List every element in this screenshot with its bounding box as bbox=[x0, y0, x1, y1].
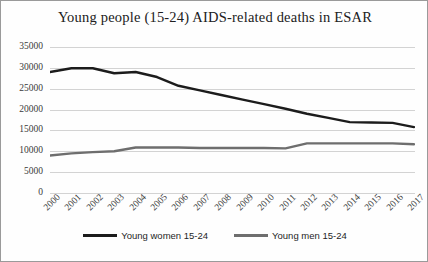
y-axis-tick-label: 5000 bbox=[0, 166, 43, 176]
legend-line-icon bbox=[83, 234, 117, 237]
chart-frame: Young people (15-24) AIDS-related deaths… bbox=[0, 0, 428, 262]
x-axis-tick-label: 2004 bbox=[127, 192, 148, 213]
x-axis-tick-label: 2001 bbox=[63, 192, 84, 213]
y-axis-tick-label: 20000 bbox=[0, 104, 43, 114]
chart-legend: Young women 15-24Young men 15-24 bbox=[1, 230, 428, 241]
series-line bbox=[50, 68, 414, 127]
chart-title: Young people (15-24) AIDS-related deaths… bbox=[1, 9, 428, 26]
y-axis-tick-label: 15000 bbox=[0, 124, 43, 134]
x-axis-tick-label: 2013 bbox=[320, 192, 341, 213]
series-line bbox=[50, 143, 414, 155]
x-axis-tick-label: 2007 bbox=[191, 192, 212, 213]
legend-label: Young women 15-24 bbox=[121, 230, 208, 241]
x-axis-tick-label: 2015 bbox=[363, 192, 384, 213]
x-axis-tick-label: 2006 bbox=[170, 192, 191, 213]
y-axis-tick-label: 30000 bbox=[0, 62, 43, 72]
y-axis-tick-label: 0 bbox=[0, 187, 43, 197]
x-axis-tick-label: 2000 bbox=[42, 192, 63, 213]
x-axis-tick-label: 2008 bbox=[213, 192, 234, 213]
legend-line-icon bbox=[234, 234, 268, 237]
series-svg bbox=[50, 47, 415, 193]
x-axis-tick-label: 2005 bbox=[149, 192, 170, 213]
x-axis-tick-label: 2017 bbox=[406, 192, 427, 213]
series-lines bbox=[50, 47, 415, 193]
legend-item[interactable]: Young women 15-24 bbox=[83, 230, 208, 241]
y-axis-tick-label: 25000 bbox=[0, 83, 43, 93]
x-axis-tick-label: 2012 bbox=[298, 192, 319, 213]
x-axis-tick-label: 2011 bbox=[277, 192, 297, 212]
x-axis-tick-label: 2010 bbox=[256, 192, 277, 213]
y-axis-tick-label: 35000 bbox=[0, 41, 43, 51]
legend-label: Young men 15-24 bbox=[272, 230, 347, 241]
y-axis-tick-label: 10000 bbox=[0, 145, 43, 155]
x-axis-tick-label: 2016 bbox=[384, 192, 405, 213]
x-axis-tick-label: 2014 bbox=[341, 192, 362, 213]
x-axis-tick-label: 2002 bbox=[84, 192, 105, 213]
x-axis-ticks: 2000200120022003200420052006200720082009… bbox=[50, 194, 415, 228]
legend-item[interactable]: Young men 15-24 bbox=[234, 230, 347, 241]
x-axis-tick-label: 2003 bbox=[106, 192, 127, 213]
plot-area bbox=[50, 47, 415, 193]
x-axis-tick-label: 2009 bbox=[234, 192, 255, 213]
